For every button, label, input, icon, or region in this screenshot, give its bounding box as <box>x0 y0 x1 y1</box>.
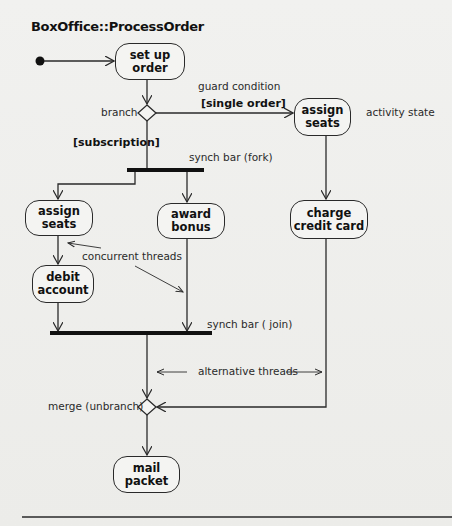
label-concurrent-threads: concurrent threads <box>82 250 182 262</box>
activity-assign-seats-single: assignseats <box>294 98 351 136</box>
diagram-title: BoxOffice::ProcessOrder <box>31 19 204 34</box>
activity-debit-account: debitaccount <box>32 265 94 303</box>
label-guard-condition: guard condition <box>198 80 280 92</box>
activity-award-bonus: awardbonus <box>157 203 225 239</box>
branch-diamond <box>138 105 156 121</box>
label-subscription-guard: [subscription] <box>73 136 160 149</box>
label-single-order-guard: [single order] <box>201 97 286 110</box>
label-merge: merge (unbranch) <box>48 400 143 412</box>
initial-node <box>36 57 45 66</box>
label-synch-bar-join: synch bar ( join) <box>207 318 292 330</box>
activity-charge-credit-card: chargecredit card <box>290 200 368 239</box>
join-bar <box>50 331 212 335</box>
activity-mail-packet: mailpacket <box>113 456 180 493</box>
activity-set-up-order: set uporder <box>115 43 185 80</box>
label-activity-state: activity state <box>366 106 435 118</box>
fork-bar <box>127 168 204 172</box>
label-synch-bar-fork: synch bar (fork) <box>189 151 273 163</box>
label-branch: branch <box>101 106 138 118</box>
activity-diagram-edges <box>0 0 452 526</box>
label-alternative-threads: alternative threads <box>198 365 298 377</box>
activity-assign-seats-subscription: assignseats <box>25 200 93 236</box>
